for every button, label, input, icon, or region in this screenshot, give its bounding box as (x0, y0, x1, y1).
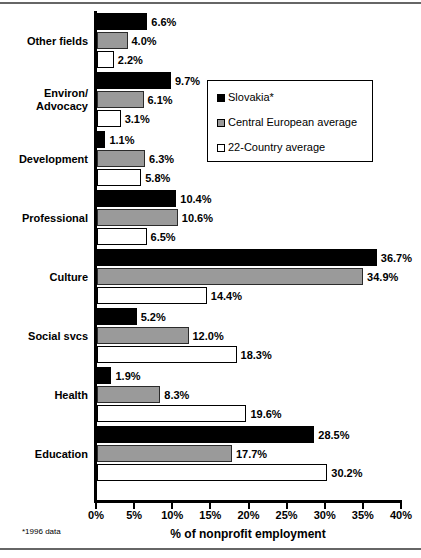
bar-other-fields-series-2 (97, 51, 114, 68)
bar-value-label: 1.9% (115, 370, 140, 382)
bar-value-label: 36.7% (381, 252, 412, 264)
category-label-education: Education (0, 447, 88, 460)
legend-item-22-country-average: 22-Country average (217, 142, 325, 153)
bar-education-series-2 (97, 464, 327, 481)
bar-value-label: 9.7% (175, 75, 200, 87)
legend-swatch-black-icon (217, 94, 225, 102)
x-tick-label-5: 5% (126, 509, 142, 521)
bar-health-series-2 (97, 405, 246, 422)
bar-social-svcs-series-1 (97, 327, 189, 344)
bar-value-label: 1.1% (109, 134, 134, 146)
category-label-other-fields: Other fields (0, 34, 88, 47)
x-tick-label-25: 25% (276, 509, 298, 521)
bar-value-label: 8.3% (164, 389, 189, 401)
bar-other-fields-series-0 (97, 13, 147, 30)
bar-value-label: 30.2% (331, 467, 362, 479)
bar-value-label: 19.6% (250, 408, 281, 420)
x-tick-label-0: 0% (88, 509, 104, 521)
bar-health-series-1 (97, 386, 160, 403)
bar-chart: 0%5%10%15%20%25%30%35%40% Other fieldsEn… (0, 0, 421, 558)
bar-value-label: 6.1% (148, 94, 173, 106)
bar-value-label: 5.2% (141, 311, 166, 323)
bar-value-label: 10.6% (182, 212, 213, 224)
bar-value-label: 34.9% (367, 271, 398, 283)
bar-environ-advocacy-series-0 (97, 72, 171, 89)
bar-professional-series-1 (97, 209, 178, 226)
bar-other-fields-series-1 (97, 32, 128, 49)
bar-professional-series-0 (97, 190, 176, 207)
legend-swatch-white-icon (217, 144, 225, 152)
bar-value-label: 10.4% (180, 193, 211, 205)
legend-label-central-european-average: Central European average (228, 117, 357, 128)
x-tick-label-20: 20% (237, 509, 259, 521)
x-tick-label-30: 30% (314, 509, 336, 521)
bar-health-series-0 (97, 367, 111, 384)
bar-education-series-1 (97, 445, 232, 462)
legend-label-slovakia: Slovakia* (228, 92, 274, 103)
bar-value-label: 12.0% (193, 330, 224, 342)
bar-development-series-1 (97, 150, 145, 167)
bar-environ-advocacy-series-2 (97, 110, 121, 127)
bar-value-label: 18.3% (241, 349, 272, 361)
bar-culture-series-2 (97, 287, 207, 304)
bar-value-label: 3.1% (125, 113, 150, 125)
bar-development-series-2 (97, 169, 141, 186)
bar-professional-series-2 (97, 228, 147, 245)
bar-social-svcs-series-2 (97, 346, 237, 363)
x-tick-label-10: 10% (161, 509, 183, 521)
x-tick-label-40: 40% (390, 509, 412, 521)
category-label-development: Development (0, 152, 88, 165)
category-label-health: Health (0, 388, 88, 401)
bar-value-label: 17.7% (236, 448, 267, 460)
bar-value-label: 6.3% (149, 153, 174, 165)
x-axis-title: % of nonprofit employment (94, 527, 402, 541)
category-label-social-svcs: Social svcs (0, 329, 88, 342)
bar-environ-advocacy-series-1 (97, 91, 144, 108)
bar-value-label: 4.0% (132, 35, 157, 47)
bar-development-series-0 (97, 131, 105, 148)
bar-culture-series-1 (97, 268, 363, 285)
chart-legend: Slovakia* Central European average 22-Co… (207, 80, 373, 162)
legend-item-central-european-average: Central European average (217, 117, 357, 128)
x-tick-label-35: 35% (352, 509, 374, 521)
bar-value-label: 6.5% (151, 231, 176, 243)
legend-item-slovakia: Slovakia* (217, 92, 274, 103)
bar-value-label: 2.2% (118, 54, 143, 66)
bar-value-label: 28.5% (318, 429, 349, 441)
chart-footnote: *1996 data (22, 527, 61, 536)
bar-social-svcs-series-0 (97, 308, 137, 325)
x-tick-label-15: 15% (199, 509, 221, 521)
bar-culture-series-0 (97, 249, 377, 266)
legend-label-22-country-average: 22-Country average (228, 142, 325, 153)
category-label-environ-advocacy: Environ/ Advocacy (0, 87, 88, 113)
bar-value-label: 14.4% (211, 290, 242, 302)
category-label-professional: Professional (0, 211, 88, 224)
bar-value-label: 5.8% (145, 172, 170, 184)
bar-education-series-0 (97, 426, 314, 443)
category-label-culture: Culture (0, 270, 88, 283)
bar-value-label: 6.6% (151, 16, 176, 28)
legend-swatch-gray-icon (217, 119, 225, 127)
